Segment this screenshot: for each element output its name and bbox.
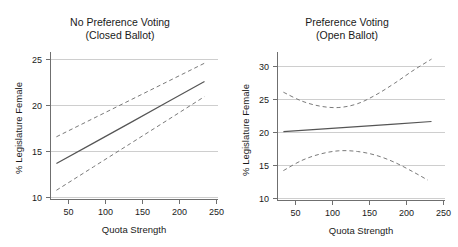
xtick-label: 50 <box>290 208 300 218</box>
open-ballot-svg: Preference Voting (Open Ballot) <box>229 0 458 247</box>
axes-right <box>273 52 445 205</box>
xaxis-label-left: Quota Strength <box>102 224 166 235</box>
chart-panel-open-ballot: Preference Voting (Open Ballot) <box>229 0 458 247</box>
ytick-label: 25 <box>259 95 269 105</box>
xtick-label: 50 <box>63 207 73 217</box>
xtick-labels-right: 50 100 150 200 250 <box>290 208 451 218</box>
chart-panel-closed-ballot: No Preference Voting (Closed Ballot) <box>0 0 229 247</box>
xtick-label: 100 <box>98 207 113 217</box>
xtick-labels-left: 50 100 150 200 250 <box>63 207 224 217</box>
ci-lower-left <box>56 97 204 191</box>
ytick-label: 10 <box>259 194 269 204</box>
xtick-label: 250 <box>209 207 224 217</box>
xtick-label: 200 <box>172 207 187 217</box>
xtick-label: 100 <box>325 208 340 218</box>
series-right <box>283 59 431 180</box>
ytick-label: 15 <box>259 161 269 171</box>
ytick-label: 25 <box>32 55 42 65</box>
axes-left <box>46 52 218 204</box>
ytick-label: 10 <box>32 193 42 203</box>
panel-title-right: Preference Voting <box>305 16 389 28</box>
gridlines-left <box>50 60 218 198</box>
xtick-label: 150 <box>135 207 150 217</box>
panel-subtitle-left: (Closed Ballot) <box>86 29 155 41</box>
xtick-label: 250 <box>436 208 451 218</box>
ytick-label: 15 <box>32 147 42 157</box>
series-left <box>56 63 204 190</box>
xaxis-label-right: Quota Strength <box>329 225 393 236</box>
ytick-label: 30 <box>259 62 269 72</box>
xtick-label: 200 <box>399 208 414 218</box>
gridlines-right <box>277 67 445 199</box>
yaxis-label-left: % Legislature Female <box>13 82 24 174</box>
ytick-label: 20 <box>32 101 42 111</box>
ytick-labels-right: 30 25 20 15 10 <box>259 62 269 204</box>
fit-line-right <box>283 122 431 132</box>
yaxis-label-right: % Legislature Female <box>240 84 251 176</box>
ytick-labels-left: 25 20 15 10 <box>32 55 42 203</box>
closed-ballot-svg: No Preference Voting (Closed Ballot) <box>0 0 229 247</box>
figure-container: No Preference Voting (Closed Ballot) <box>0 0 458 247</box>
xtick-label: 150 <box>362 208 377 218</box>
ytick-label: 20 <box>259 128 269 138</box>
panel-title-left: No Preference Voting <box>70 16 170 28</box>
ci-upper-left <box>56 63 204 137</box>
panel-subtitle-right: (Open Ballot) <box>316 29 378 41</box>
